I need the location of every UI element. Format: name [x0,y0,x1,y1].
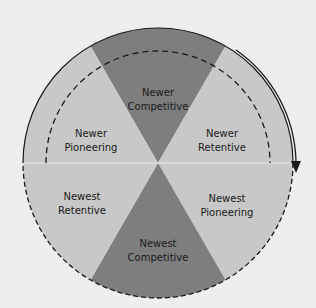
svg-text:Newest: Newest [63,191,100,202]
label-newest-retentive-2: Retentive [58,205,106,216]
label-newer-competitive-2: Competitive [128,101,189,112]
label-newest-competitive-2: Competitive [128,252,189,263]
label-newest-competitive-1: Newest [139,238,176,249]
svg-text:Pioneering: Pioneering [201,207,254,218]
svg-text:Newest: Newest [139,238,176,249]
svg-text:Retentive: Retentive [198,142,246,153]
label-newer-competitive-1: Newer [142,87,175,98]
svg-text:Retentive: Retentive [58,205,106,216]
label-newest-pioneering-2: Pioneering [201,207,254,218]
svg-text:Newer: Newer [75,128,108,139]
label-newest-retentive-1: Newest [63,191,100,202]
svg-text:Competitive: Competitive [128,101,189,112]
svg-text:Newest: Newest [208,193,245,204]
label-newer-pioneering-2: Pioneering [65,142,118,153]
label-newer-retentive-1: Newer [206,128,239,139]
label-newer-retentive-2: Retentive [198,142,246,153]
svg-text:Newer: Newer [206,128,239,139]
label-newest-pioneering-1: Newest [208,193,245,204]
svg-text:Pioneering: Pioneering [65,142,118,153]
svg-text:Newer: Newer [142,87,175,98]
svg-text:Competitive: Competitive [128,252,189,263]
cycle-diagram: Newer Competitive Newer Retentive Newest… [0,0,316,308]
label-newer-pioneering-1: Newer [75,128,108,139]
